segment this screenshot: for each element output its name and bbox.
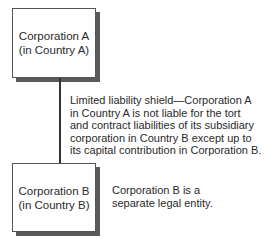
note-line: its capital contribution in Corporation … [70, 144, 261, 157]
note-line: in Country A is not liable for the tort [70, 107, 261, 120]
limited-liability-note: Limited liability shield—Corporation A i… [70, 94, 261, 157]
separate-entity-note: Corporation B is a separate legal entity… [112, 184, 213, 209]
corporation-a-box: Corporation A (in Country A) [12, 8, 96, 78]
corporation-b-country: (in Country B) [19, 198, 90, 212]
corporation-a-country: (in Country A) [19, 43, 89, 57]
note-line: Corporation B is a [112, 184, 213, 197]
note-line: corporation in Country B except up to [70, 132, 261, 145]
corporation-a-name: Corporation A [19, 29, 89, 43]
note-line: separate legal entity. [112, 197, 213, 210]
note-line: Limited liability shield—Corporation A [70, 94, 261, 107]
ownership-connector-line [59, 78, 61, 164]
corporation-b-name: Corporation B [19, 184, 90, 198]
corporation-b-box: Corporation B (in Country B) [12, 163, 96, 232]
note-line: and contract liabilities of its subsidia… [70, 119, 261, 132]
